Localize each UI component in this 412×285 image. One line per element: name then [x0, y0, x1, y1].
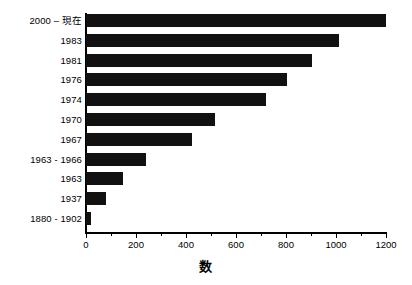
- y-axis-tick-label: 1967: [0, 133, 82, 146]
- x-axis-minor-tick: [361, 232, 362, 236]
- x-axis-tick-label: 400: [178, 239, 194, 250]
- bar-chart: 2000 – 現在1983198119761974197019671963 - …: [0, 0, 412, 285]
- y-axis-tick-label: 1963 - 1966: [0, 153, 82, 166]
- x-axis-tick-label: 1000: [325, 239, 346, 250]
- bar-row: [86, 113, 386, 126]
- x-axis-minor-tick: [161, 232, 162, 236]
- bar: [86, 14, 386, 27]
- x-axis-tick-label: 800: [278, 239, 294, 250]
- bar-row: [86, 34, 386, 47]
- x-axis-tick-label: 600: [228, 239, 244, 250]
- y-axis-category-labels: 2000 – 現在1983198119761974197019671963 - …: [0, 14, 82, 232]
- x-axis-minor-tick: [111, 232, 112, 236]
- x-axis-major-tick: [86, 232, 87, 238]
- bar-row: [86, 93, 386, 106]
- bar-row: [86, 54, 386, 67]
- bar: [86, 133, 192, 146]
- x-axis-minor-tick: [311, 232, 312, 236]
- x-axis-major-tick: [236, 232, 237, 238]
- x-axis-tick-label: 0: [83, 239, 88, 250]
- y-axis-tick-label: 1880 - 1902: [0, 212, 82, 225]
- bar-row: [86, 133, 386, 146]
- y-axis-tick-label: 1963: [0, 172, 82, 185]
- bar: [86, 54, 312, 67]
- y-axis-tick-label: 1976: [0, 73, 82, 86]
- y-axis-tick-label: 1970: [0, 113, 82, 126]
- bar: [86, 113, 215, 126]
- x-axis-major-tick: [336, 232, 337, 238]
- bar-row: [86, 212, 386, 225]
- bar-row: [86, 73, 386, 86]
- x-axis-title: 数: [0, 256, 412, 275]
- bar: [86, 192, 106, 205]
- bar: [86, 73, 287, 86]
- plot-area: [86, 14, 386, 232]
- bar: [86, 34, 339, 47]
- bar-row: [86, 153, 386, 166]
- bar: [86, 212, 91, 225]
- bar: [86, 93, 266, 106]
- y-axis-tick-label: 1983: [0, 34, 82, 47]
- x-axis-major-tick: [286, 232, 287, 238]
- y-axis-tick-label: 2000 – 現在: [0, 14, 82, 27]
- bar: [86, 153, 146, 166]
- y-axis-tick-label: 1974: [0, 93, 82, 106]
- x-axis-major-tick: [136, 232, 137, 238]
- y-axis-tick-label: 1981: [0, 54, 82, 67]
- x-axis-tick-label: 1200: [375, 239, 396, 250]
- x-axis-major-tick: [186, 232, 187, 238]
- bar-row: [86, 14, 386, 27]
- y-axis-tick-label: 1937: [0, 192, 82, 205]
- x-axis-major-tick: [386, 232, 387, 238]
- x-axis-minor-tick: [261, 232, 262, 236]
- bar-row: [86, 172, 386, 185]
- bar-row: [86, 192, 386, 205]
- bar: [86, 172, 123, 185]
- x-axis-tick-label: 200: [128, 239, 144, 250]
- x-axis-minor-tick: [211, 232, 212, 236]
